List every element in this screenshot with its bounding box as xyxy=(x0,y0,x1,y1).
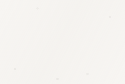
background-rect xyxy=(0,0,125,84)
two-circles-diagram xyxy=(0,0,125,84)
figure-container xyxy=(0,0,125,84)
